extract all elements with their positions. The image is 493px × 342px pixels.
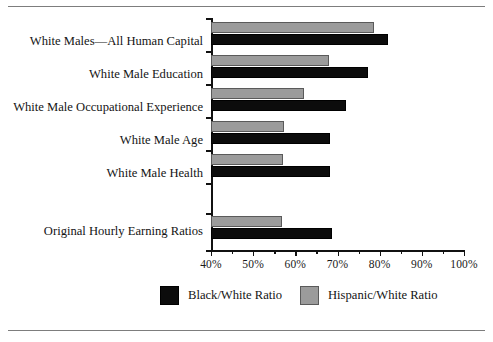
bar-black-4 (211, 166, 330, 177)
bar-black-0 (211, 34, 388, 45)
x-tick-90 (422, 250, 423, 256)
x-tick-label-50: 50% (242, 258, 264, 270)
y-axis-tick-0 (206, 18, 211, 20)
y-axis-tick-2 (206, 84, 211, 86)
x-tick-label-40: 40% (200, 258, 222, 270)
top-divider-rule (8, 6, 485, 7)
bar-hispanic-2 (211, 88, 304, 99)
bar-black-6 (211, 228, 332, 239)
bar-hispanic-0 (211, 22, 374, 33)
bar-hispanic-6 (211, 216, 282, 227)
category-label-column: White Males—All Human Capital White Male… (0, 18, 203, 250)
category-label-6: Original Hourly Earning Ratios (44, 224, 203, 239)
x-tick-label-90: 90% (411, 258, 433, 270)
x-tick-label-80: 80% (369, 258, 391, 270)
legend-item-hispanic-white-ratio: Hispanic/White Ratio (300, 286, 437, 305)
x-tick-100 (464, 250, 465, 256)
x-tick-minor-45 (232, 250, 233, 254)
category-label-4: White Male Health (106, 166, 203, 181)
x-tick-50 (253, 250, 254, 256)
x-tick-70 (338, 250, 339, 256)
legend-label-hispanic: Hispanic/White Ratio (328, 288, 437, 303)
x-tick-minor-95 (443, 250, 444, 254)
x-tick-label-70: 70% (327, 258, 349, 270)
bar-hispanic-4 (211, 154, 283, 165)
y-axis-tick-6 (206, 213, 211, 215)
x-tick-60 (295, 250, 296, 256)
x-tick-minor-55 (274, 250, 275, 254)
x-tick-80 (380, 250, 381, 256)
category-label-1: White Male Education (89, 67, 203, 82)
legend-label-black: Black/White Ratio (188, 288, 282, 303)
bar-black-2 (211, 100, 346, 111)
category-label-3: White Male Age (120, 133, 203, 148)
bar-hispanic-3 (211, 121, 284, 132)
bar-black-1 (211, 67, 368, 78)
category-label-2: White Male Occupational Experience (13, 100, 203, 115)
category-label-0: White Males—All Human Capital (30, 34, 203, 49)
y-axis-tick-5 (206, 183, 211, 185)
legend-item-black-white-ratio: Black/White Ratio (160, 286, 282, 305)
plot-area: 40% 50% 60% 70% 80% 90% 100% (211, 18, 464, 250)
legend-swatch-icon-gray (300, 286, 319, 305)
x-tick-label-100: 100% (450, 258, 478, 270)
y-axis-tick-3 (206, 117, 211, 119)
y-axis-tick-4 (206, 150, 211, 152)
x-tick-minor-85 (401, 250, 402, 254)
bar-black-3 (211, 133, 330, 144)
y-axis-tick-1 (206, 51, 211, 53)
bar-hispanic-1 (211, 55, 329, 66)
x-tick-label-60: 60% (284, 258, 306, 270)
legend-swatch-icon-black (160, 286, 179, 305)
bottom-divider-rule (8, 330, 485, 331)
chart-figure: White Males—All Human Capital White Male… (0, 0, 493, 342)
x-tick-minor-75 (359, 250, 360, 254)
x-tick-minor-65 (316, 250, 317, 254)
x-tick-40 (211, 250, 212, 256)
chart-legend: Black/White Ratio Hispanic/White Ratio (0, 286, 493, 312)
